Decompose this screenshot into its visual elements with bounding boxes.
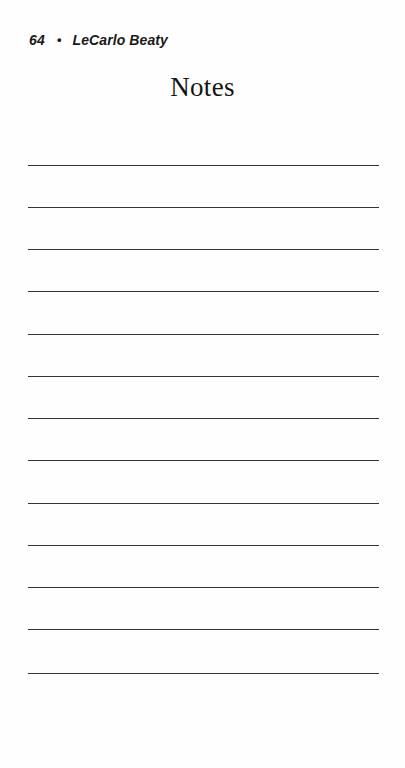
writing-rule-line bbox=[28, 291, 379, 292]
writing-rule-line bbox=[28, 545, 379, 546]
page-number: 64 bbox=[29, 32, 45, 48]
book-page: 64 • LeCarlo Beaty Notes bbox=[0, 0, 405, 768]
page-title: Notes bbox=[0, 72, 405, 103]
writing-rule-line bbox=[28, 460, 379, 461]
ruled-lines-area bbox=[0, 0, 405, 768]
writing-rule-line bbox=[28, 249, 379, 250]
writing-rule-line bbox=[28, 418, 379, 419]
writing-rule-line bbox=[28, 503, 379, 504]
writing-rule-line bbox=[28, 165, 379, 166]
writing-rule-line bbox=[28, 587, 379, 588]
writing-rule-line bbox=[28, 207, 379, 208]
bullet-separator-icon: • bbox=[57, 32, 62, 47]
writing-rule-line bbox=[28, 629, 379, 630]
author-name: LeCarlo Beaty bbox=[73, 32, 168, 48]
writing-rule-line bbox=[28, 334, 379, 335]
writing-rule-line bbox=[28, 673, 379, 674]
writing-rule-line bbox=[28, 376, 379, 377]
running-head: 64 • LeCarlo Beaty bbox=[29, 32, 168, 48]
